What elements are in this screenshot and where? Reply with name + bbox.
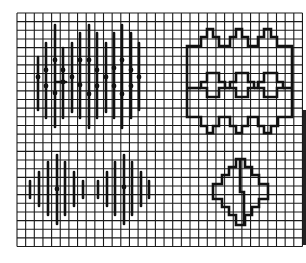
grid-paper [17, 13, 302, 247]
stitch-knot [120, 58, 125, 63]
stitch-knot [36, 75, 41, 80]
stitch-knot [78, 58, 83, 63]
stitch-knot [122, 185, 127, 190]
stitch-knot [87, 92, 92, 97]
stitch-knot [129, 68, 134, 73]
stitch-knot [70, 75, 75, 80]
stitch-knot [112, 84, 117, 89]
stitch-knot [61, 68, 66, 73]
stitch-knot [78, 83, 83, 88]
stitch-knot [55, 187, 60, 192]
stitch-knot [129, 84, 134, 89]
page-edge-shadow [303, 110, 306, 245]
stitch-knot [95, 68, 100, 73]
stitch-knot [53, 91, 58, 96]
stitch-knot [53, 58, 58, 63]
inner-motif [201, 73, 225, 97]
stitch-knot [44, 84, 49, 89]
stitch-knot [95, 84, 100, 89]
stitch-knot [120, 92, 125, 97]
stitch-knot [87, 58, 92, 63]
needlework-chart [0, 0, 306, 263]
stitch-knot [44, 68, 49, 73]
stitch-knot [112, 66, 117, 71]
straight-stitch-diamonds-bottom-left [30, 155, 149, 224]
stitch-knot [137, 75, 142, 80]
stitch-knot [104, 75, 109, 80]
inner-motif [258, 73, 283, 97]
